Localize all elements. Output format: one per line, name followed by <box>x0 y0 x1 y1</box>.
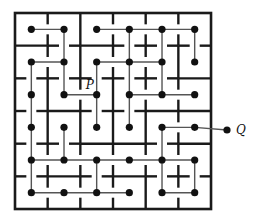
node-dot <box>191 91 198 98</box>
node-dot <box>60 124 67 131</box>
maze-walls <box>15 13 211 209</box>
node-dot <box>126 91 133 98</box>
node-dot <box>28 156 35 163</box>
node-dot <box>191 58 198 65</box>
node-dot <box>191 156 198 163</box>
node-dot <box>28 189 35 196</box>
node-dot <box>126 156 133 163</box>
node-dot <box>28 124 35 131</box>
node-dot <box>60 156 67 163</box>
label-p: P <box>85 78 95 92</box>
node-dot <box>158 26 165 33</box>
node-dot <box>126 26 133 33</box>
node-dot <box>60 58 67 65</box>
node-dot <box>191 124 198 131</box>
node-dot <box>28 26 35 33</box>
node-dot <box>28 91 35 98</box>
node-dot <box>93 189 100 196</box>
node-dot <box>191 189 198 196</box>
node-dot <box>93 156 100 163</box>
node-dot <box>126 58 133 65</box>
node-dot <box>158 189 165 196</box>
node-dot <box>60 189 67 196</box>
node-dot <box>158 124 165 131</box>
node-dot <box>93 58 100 65</box>
node-dot <box>158 58 165 65</box>
node-dot <box>93 124 100 131</box>
node-dot <box>93 91 100 98</box>
node-dot <box>126 124 133 131</box>
node-dot <box>191 26 198 33</box>
node-dot <box>158 91 165 98</box>
node-dot <box>93 26 100 33</box>
node-dot <box>60 91 67 98</box>
label-q: Q <box>236 123 246 137</box>
maze-diagram: PQ <box>0 0 254 224</box>
node-dot <box>126 189 133 196</box>
node-dot-q <box>223 126 230 133</box>
node-dot <box>28 58 35 65</box>
node-dot <box>158 156 165 163</box>
node-dot <box>60 26 67 33</box>
